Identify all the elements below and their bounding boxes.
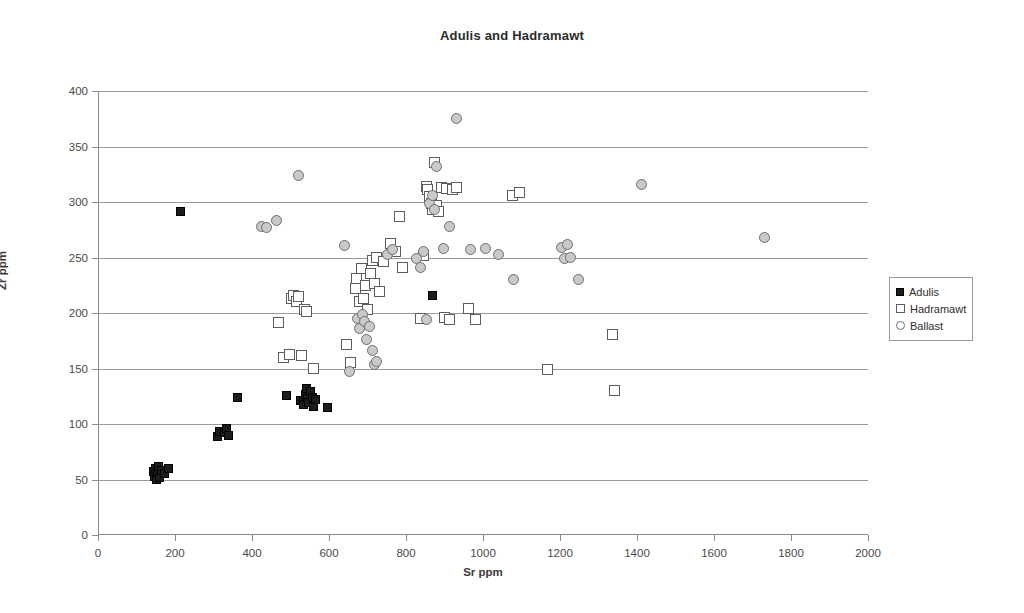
filled-square-icon	[896, 288, 904, 296]
data-point-hadramawt	[514, 187, 525, 198]
x-axis-tick	[406, 535, 407, 541]
y-axis-tick	[92, 202, 98, 203]
data-point-hadramawt	[273, 317, 284, 328]
legend-item-label: Ballast	[910, 320, 943, 332]
data-point-ballast	[364, 321, 375, 332]
gridline	[98, 424, 868, 425]
x-axis-tick-label: 600	[319, 547, 338, 559]
data-point-hadramawt	[394, 211, 405, 222]
y-axis-tick-label: 100	[69, 418, 88, 430]
gridline	[98, 258, 868, 259]
data-point-hadramawt	[470, 314, 481, 325]
y-axis-tick	[92, 424, 98, 425]
data-point-adulis	[282, 391, 291, 400]
gridline	[98, 147, 868, 148]
y-axis-tick-label: 50	[75, 474, 88, 486]
y-axis-tick	[92, 147, 98, 148]
data-point-adulis	[311, 395, 320, 404]
open-circle-icon	[896, 321, 905, 330]
y-axis-tick-label: 350	[69, 141, 88, 153]
data-point-hadramawt	[341, 339, 352, 350]
data-point-hadramawt	[397, 262, 408, 273]
legend-item-label: Hadramawt	[910, 303, 966, 315]
x-axis-tick-label: 1200	[547, 547, 573, 559]
x-axis-tick-label: 1600	[701, 547, 727, 559]
data-point-ballast	[636, 179, 647, 190]
y-axis-tick-label: 200	[69, 307, 88, 319]
x-axis-tick-label: 200	[165, 547, 184, 559]
data-point-adulis	[176, 207, 185, 216]
data-point-adulis	[428, 291, 437, 300]
x-axis-tick	[329, 535, 330, 541]
data-point-hadramawt	[609, 385, 620, 396]
data-point-hadramawt	[284, 349, 295, 360]
gridline	[98, 480, 868, 481]
x-axis-tick-label: 2000	[855, 547, 881, 559]
x-axis-tick	[560, 535, 561, 541]
data-point-ballast	[339, 240, 350, 251]
data-point-hadramawt	[542, 364, 553, 375]
y-axis-title: Zr ppm	[0, 251, 8, 290]
data-point-hadramawt	[293, 291, 304, 302]
data-point-ballast	[759, 232, 770, 243]
y-axis-tick-label: 0	[82, 529, 88, 541]
data-point-ballast	[480, 243, 491, 254]
legend: AdulisHadramawtBallast	[889, 277, 973, 341]
data-point-hadramawt	[301, 306, 312, 317]
data-point-hadramawt	[308, 363, 319, 374]
chart-title: Adulis and Hadramawt	[0, 28, 1024, 43]
data-point-adulis	[323, 403, 332, 412]
data-point-ballast	[562, 239, 573, 250]
legend-item-ballast[interactable]: Ballast	[896, 317, 966, 334]
y-axis-tick	[92, 258, 98, 259]
gridline	[98, 313, 868, 314]
x-axis-tick	[868, 535, 869, 541]
data-point-ballast	[451, 113, 462, 124]
data-point-hadramawt	[444, 314, 455, 325]
x-axis-tick-label: 1800	[778, 547, 804, 559]
y-axis-tick-label: 300	[69, 196, 88, 208]
gridline	[98, 202, 868, 203]
data-point-ballast	[493, 249, 504, 260]
data-point-ballast	[421, 314, 432, 325]
data-point-ballast	[367, 345, 378, 356]
x-axis-tick	[637, 535, 638, 541]
x-axis-tick-label: 400	[242, 547, 261, 559]
data-point-adulis	[233, 393, 242, 402]
x-axis-tick	[252, 535, 253, 541]
y-axis-tick	[92, 313, 98, 314]
data-point-adulis	[224, 431, 233, 440]
data-point-hadramawt	[374, 286, 385, 297]
x-axis-tick	[714, 535, 715, 541]
x-axis-tick	[791, 535, 792, 541]
x-axis-tick	[483, 535, 484, 541]
plot-area: 050100150200250300350400 020040060080010…	[98, 91, 868, 535]
y-axis-tick	[92, 369, 98, 370]
x-axis-title: Sr ppm	[98, 566, 868, 578]
data-point-hadramawt	[358, 293, 369, 304]
scatter-chart: Adulis and Hadramawt 0501001502002503003…	[0, 0, 1024, 613]
x-axis-tick	[175, 535, 176, 541]
legend-item-adulis[interactable]: Adulis	[896, 283, 966, 300]
legend-item-hadramawt[interactable]: Hadramawt	[896, 300, 966, 317]
x-axis-tick-label: 0	[95, 547, 101, 559]
y-axis-tick-label: 150	[69, 363, 88, 375]
data-point-hadramawt	[451, 182, 462, 193]
data-point-ballast	[427, 190, 438, 201]
x-axis-tick-label: 1000	[470, 547, 496, 559]
y-axis-tick	[92, 91, 98, 92]
data-point-hadramawt	[296, 350, 307, 361]
data-point-hadramawt	[607, 329, 618, 340]
open-square-icon	[896, 304, 905, 313]
y-axis-tick	[92, 480, 98, 481]
data-point-adulis	[164, 464, 173, 473]
y-axis-tick-label: 400	[69, 85, 88, 97]
data-point-ballast	[293, 170, 304, 181]
gridline	[98, 91, 868, 92]
x-axis-tick-label: 1400	[624, 547, 650, 559]
gridline	[98, 369, 868, 370]
x-axis-tick	[98, 535, 99, 541]
y-axis-tick-label: 250	[69, 252, 88, 264]
legend-item-label: Adulis	[909, 286, 939, 298]
x-axis-tick-label: 800	[396, 547, 415, 559]
